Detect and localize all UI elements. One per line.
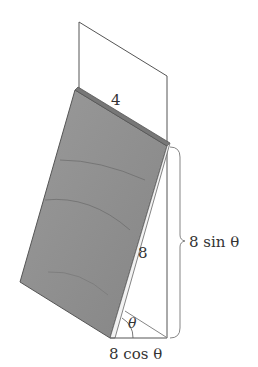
base-label: 8 cos θ <box>109 345 162 363</box>
angle-label: θ <box>128 315 137 331</box>
top-width-label: 4 <box>111 91 121 109</box>
height-label: 8 sin θ <box>189 233 239 251</box>
trough-diagram: 4 8 θ 8 sin θ 8 cos θ <box>0 0 258 367</box>
tilted-panel <box>20 87 170 338</box>
height-brace <box>170 147 185 338</box>
slant-length-label: 8 <box>138 244 148 262</box>
